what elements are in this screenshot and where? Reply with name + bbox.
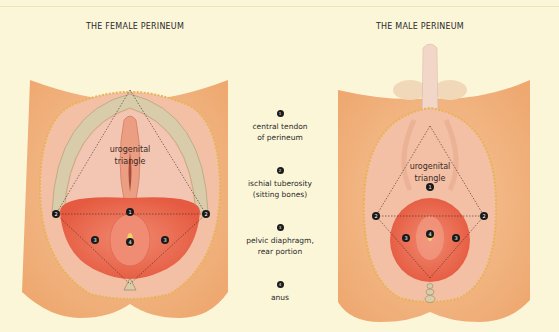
legend-text-line1: anus (230, 292, 330, 303)
legend-text-line1: central tendon (230, 121, 330, 132)
svg-text:3: 3 (93, 237, 96, 243)
legend-item-anus: 4 anus (230, 271, 330, 303)
female-urogenital-label-2: triangle (115, 157, 146, 166)
svg-text:3: 3 (163, 237, 166, 243)
svg-text:2: 2 (374, 213, 377, 219)
legend: 1 central tendon of perineum 2 ischial t… (230, 100, 330, 317)
legend-text-line2: rear portion (230, 246, 330, 257)
legend-text-line2: of perineum (230, 132, 330, 143)
male-perineum-title: THE MALE PERINEUM (340, 22, 500, 31)
svg-text:1: 1 (428, 184, 431, 190)
legend-item-ischial-tuberosity: 2 ischial tuberosity (sitting bones) (230, 157, 330, 200)
legend-item-central-tendon: 1 central tendon of perineum (230, 100, 330, 143)
svg-text:2: 2 (204, 211, 207, 217)
legend-number-2: 2 (277, 167, 284, 174)
female-urogenital-label-1: urogenital (110, 145, 151, 154)
male-perineum-illustration: urogenital triangle 1 2 2 3 3 4 (330, 40, 559, 330)
svg-text:4: 4 (128, 239, 131, 245)
female-perineum-illustration: urogenital triangle 1 2 2 3 3 4 (0, 72, 230, 324)
svg-text:3: 3 (404, 235, 407, 241)
legend-item-pelvic-diaphragm: 3 pelvic diaphragm, rear portion (230, 214, 330, 257)
legend-number-4: 4 (277, 281, 284, 288)
legend-text-line1: pelvic diaphragm, (230, 235, 330, 246)
female-anatomy-svg: urogenital triangle 1 2 2 3 3 4 (0, 72, 230, 324)
legend-number-1: 1 (277, 110, 284, 117)
legend-number-3: 3 (277, 224, 284, 231)
male-anatomy-svg: urogenital triangle 1 2 2 3 3 4 (330, 40, 559, 330)
svg-text:2: 2 (482, 213, 485, 219)
male-urogenital-label-1: urogenital (410, 162, 451, 171)
female-perineum-title: THE FEMALE PERINEUM (60, 22, 210, 31)
svg-text:4: 4 (428, 231, 431, 237)
legend-text-line1: ischial tuberosity (230, 178, 330, 189)
svg-text:2: 2 (54, 211, 57, 217)
svg-text:1: 1 (128, 209, 131, 215)
top-rule (0, 6, 559, 7)
svg-text:3: 3 (454, 235, 457, 241)
male-urogenital-label-2: triangle (415, 174, 446, 183)
legend-text-line2: (sitting bones) (230, 189, 330, 200)
